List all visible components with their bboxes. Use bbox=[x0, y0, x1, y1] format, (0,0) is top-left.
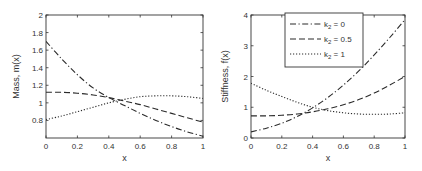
x-tick-label: 0.4 bbox=[103, 142, 115, 151]
y-tick-label: 1.8 bbox=[32, 29, 44, 38]
legend: k2 = 0k2 = 0.5k2 = 1 bbox=[285, 13, 363, 67]
y-tick-label: 2 bbox=[244, 73, 249, 82]
y-tick-label: 1.6 bbox=[32, 46, 44, 55]
y-tick-label: 1 bbox=[244, 103, 249, 112]
x-tick-label: 0.2 bbox=[276, 142, 288, 151]
x-tick-label: 0.2 bbox=[72, 142, 84, 151]
y-tick-label: 3 bbox=[244, 42, 249, 51]
x-tick-label: 0.6 bbox=[338, 142, 350, 151]
stiffness-axis-label: Stiffness, f(x) bbox=[220, 50, 230, 102]
legend-label: k2 = 0 bbox=[324, 20, 345, 30]
y-tick-label: 1.4 bbox=[32, 64, 44, 73]
y-tick-label: 1.2 bbox=[32, 81, 44, 90]
x-axis-label: x bbox=[326, 153, 331, 163]
x-tick-label: 1 bbox=[403, 142, 408, 151]
x-tick-label: 0 bbox=[249, 142, 254, 151]
y-tick-label: 1 bbox=[39, 99, 44, 108]
mass-plot: 00.20.40.60.810.811.21.41.61.82xMass, m(… bbox=[11, 11, 206, 163]
x-tick-label: 0.4 bbox=[307, 142, 319, 151]
y-tick-label: 0 bbox=[244, 134, 249, 143]
stiffness-plot: 00.20.40.60.8101234xStiffness, f(x)k2 = … bbox=[220, 11, 408, 163]
y-tick-label: 4 bbox=[244, 11, 249, 20]
x-tick-label: 0.8 bbox=[369, 142, 381, 151]
x-axis-label: x bbox=[122, 153, 127, 163]
legend-label: k2 = 1 bbox=[324, 50, 345, 60]
x-tick-label: 0.6 bbox=[135, 142, 147, 151]
x-tick-label: 0 bbox=[44, 142, 49, 151]
mass-axis-label: Mass, m(x) bbox=[11, 54, 21, 99]
x-tick-label: 1 bbox=[201, 142, 206, 151]
y-tick-label: 2 bbox=[39, 11, 44, 20]
plot-area bbox=[46, 15, 203, 138]
y-tick-label: 0.8 bbox=[32, 116, 44, 125]
x-tick-label: 0.8 bbox=[166, 142, 178, 151]
figure: 00.20.40.60.810.811.21.41.61.82xMass, m(… bbox=[0, 0, 422, 171]
